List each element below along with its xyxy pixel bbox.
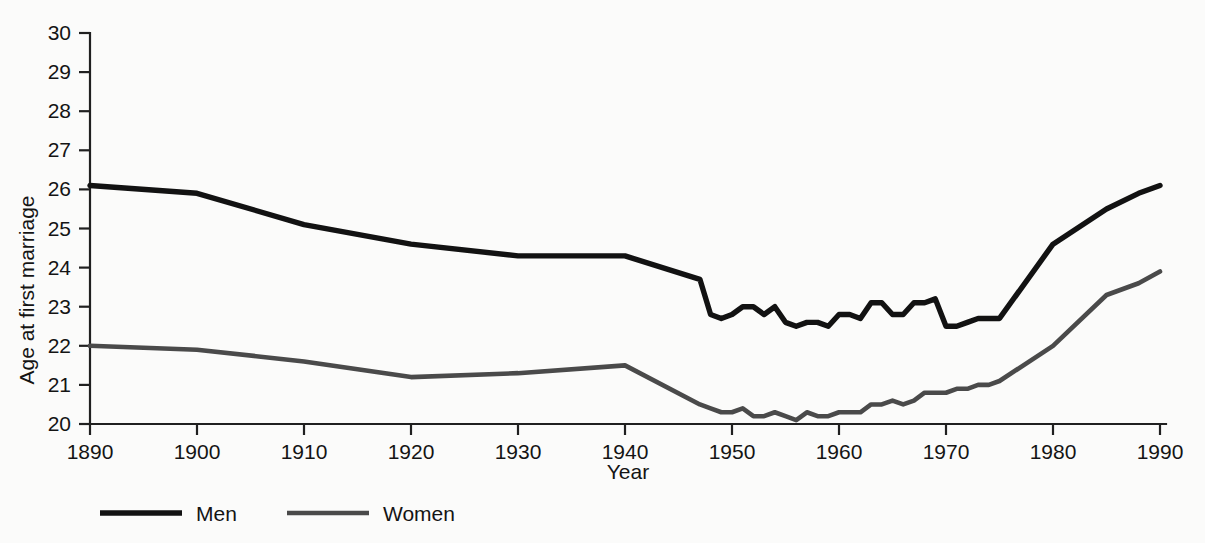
y-tick-label: 23 xyxy=(48,295,71,318)
x-axis-ticks xyxy=(90,424,1160,435)
y-axis-group: 2021222324252627282930 xyxy=(48,21,90,435)
plot-series-group xyxy=(90,185,1160,420)
x-tick-label: 1980 xyxy=(1030,440,1077,463)
x-tick-label: 1910 xyxy=(281,440,328,463)
legend: Men Women xyxy=(100,502,455,525)
x-tick-label: 1960 xyxy=(816,440,863,463)
y-axis-ticks xyxy=(79,33,90,424)
y-tick-label: 27 xyxy=(48,138,71,161)
y-tick-label: 28 xyxy=(48,99,71,122)
y-tick-label: 30 xyxy=(48,21,71,44)
y-tick-label: 21 xyxy=(48,373,71,396)
x-axis-title: Year xyxy=(607,460,649,483)
y-tick-label: 24 xyxy=(48,256,72,279)
y-tick-label: 20 xyxy=(48,412,71,435)
x-tick-label: 1930 xyxy=(495,440,542,463)
x-tick-label: 1970 xyxy=(923,440,970,463)
legend-label-men: Men xyxy=(196,502,237,525)
x-tick-label: 1900 xyxy=(174,440,221,463)
x-axis-group: 1890190019101920193019401950196019701980… xyxy=(67,424,1184,463)
x-tick-label: 1890 xyxy=(67,440,114,463)
series-line-women xyxy=(90,272,1160,421)
chart-figure: 2021222324252627282930 18901900191019201… xyxy=(0,0,1205,543)
line-chart-svg: 2021222324252627282930 18901900191019201… xyxy=(0,0,1205,543)
legend-label-women: Women xyxy=(383,502,455,525)
x-tick-label: 1920 xyxy=(388,440,435,463)
y-axis-title: Age at first marriage xyxy=(15,195,38,384)
x-tick-label: 1990 xyxy=(1137,440,1184,463)
y-tick-label: 25 xyxy=(48,217,71,240)
y-tick-label: 29 xyxy=(48,60,71,83)
y-axis-tick-labels: 2021222324252627282930 xyxy=(48,21,72,435)
x-tick-label: 1950 xyxy=(709,440,756,463)
y-tick-label: 22 xyxy=(48,334,71,357)
series-line-men xyxy=(90,185,1160,326)
y-tick-label: 26 xyxy=(48,177,71,200)
